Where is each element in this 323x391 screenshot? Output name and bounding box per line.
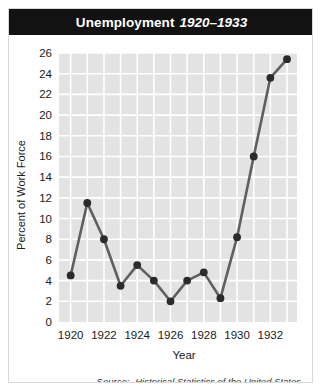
chart-title-year-range: 1920–1933 [180, 15, 248, 30]
y-tick-label: 4 [46, 275, 53, 287]
data-point-marker: 1921: 11.5 [83, 199, 91, 207]
source-title: Historical Statistics of the United Stat… [135, 376, 301, 383]
y-tick-label: 8 [46, 233, 52, 245]
y-tick-label: 22 [39, 88, 52, 100]
y-tick-label: 24 [39, 68, 52, 80]
data-point-marker: 1928: 4.8 [200, 268, 208, 276]
y-tick-label: 10 [39, 213, 52, 225]
y-tick-label: 18 [39, 130, 52, 142]
unemployment-line-chart: 02468101214161820222426 1920192219241926… [9, 35, 313, 383]
source-note: Source: Historical Statistics of the Uni… [97, 376, 301, 383]
x-tick-label: 1932 [258, 329, 284, 341]
chart-plot-area-wrapper: 02468101214161820222426 1920192219241926… [9, 35, 313, 383]
x-tick-label: 1926 [158, 329, 184, 341]
data-point-marker: 1923: 3.5 [117, 282, 125, 290]
x-tick-label: 1922 [91, 329, 117, 341]
x-tick-label: 1924 [124, 329, 150, 341]
source-prefix: Source: [97, 376, 130, 383]
x-tick-label: 1928 [191, 329, 217, 341]
x-axis-title: Year [172, 349, 195, 361]
data-point-marker: 1932: 23.6 [266, 74, 274, 82]
data-point-marker: 1922: 8 [100, 235, 108, 243]
chart-figure: Unemployment 1920–1933 02468101214161820… [8, 8, 313, 383]
y-tick-label: 26 [39, 47, 52, 59]
y-tick-label: 14 [39, 171, 52, 183]
data-point-marker: 1924: 5.5 [133, 261, 141, 269]
data-point-marker: 1926: 2 [167, 297, 175, 305]
chart-title-bar: Unemployment 1920–1933 [9, 9, 313, 35]
data-point-marker: 1927: 4 [183, 277, 191, 285]
y-tick-label: 6 [46, 254, 52, 266]
chart-title-main: Unemployment [76, 15, 175, 30]
data-point-marker: 1929: 2.3 [217, 294, 225, 302]
y-tick-label: 0 [46, 316, 52, 328]
data-point-marker: 1933: 25.4 [283, 55, 291, 63]
y-tick-label: 2 [46, 295, 52, 307]
x-tick-label: 1930 [224, 329, 250, 341]
x-tick-label: 1920 [58, 329, 84, 341]
data-point-marker: 1930: 8.2 [233, 233, 241, 241]
y-tick-label: 16 [39, 150, 52, 162]
data-point-marker: 1920: 4.5 [67, 272, 75, 280]
y-axis-tick-labels: 02468101214161820222426 [39, 47, 52, 328]
y-tick-label: 20 [39, 109, 52, 121]
y-tick-label: 12 [39, 192, 52, 204]
x-axis-tick-labels: 1920192219241926192819301932 [58, 329, 283, 341]
y-axis-title: Percent of Work Force [15, 140, 27, 250]
data-point-marker: 1931: 16 [250, 153, 258, 161]
plot-background [59, 53, 297, 322]
data-point-marker: 1925: 4 [150, 277, 158, 285]
